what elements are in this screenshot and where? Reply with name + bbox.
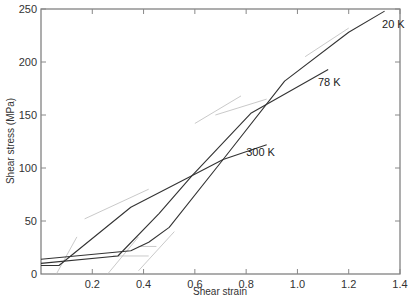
- tangent-guides: [56, 28, 348, 274]
- data-series: [41, 11, 385, 265]
- x-tick-label: 1.2: [341, 278, 356, 290]
- y-tick-label: 100: [19, 162, 37, 174]
- x-tick-label: 1.0: [290, 278, 305, 290]
- series-label: 300 K: [246, 146, 275, 158]
- x-tick-label: 0.4: [136, 278, 151, 290]
- axis-ticks: 0.20.40.60.81.01.21.4050100150200250: [19, 3, 408, 290]
- series-line: [41, 69, 328, 263]
- y-tick-label: 150: [19, 109, 37, 121]
- y-tick-label: 50: [25, 215, 37, 227]
- y-tick-label: 250: [19, 3, 37, 15]
- plot-frame: [41, 9, 400, 274]
- series-line: [41, 145, 267, 266]
- y-tick-label: 0: [31, 268, 37, 280]
- series-line: [41, 11, 385, 259]
- series-labels: 20 K78 K300 K: [246, 18, 405, 158]
- series-label: 78 K: [318, 76, 341, 88]
- chart: 0.20.40.60.81.01.21.4050100150200250 20 …: [0, 0, 410, 302]
- y-tick-label: 200: [19, 56, 37, 68]
- x-tick-label: 1.4: [392, 278, 407, 290]
- series-label: 20 K: [382, 18, 405, 30]
- x-tick-label: 0.2: [85, 278, 100, 290]
- y-axis-title: Shear stress (MPa): [5, 98, 16, 184]
- x-axis-title: Shear strain: [193, 286, 247, 297]
